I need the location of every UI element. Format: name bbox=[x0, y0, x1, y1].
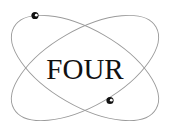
electron-bottom-right-icon bbox=[106, 97, 113, 104]
logo-wordmark: FOUR bbox=[0, 55, 170, 84]
electron-top-left-icon bbox=[31, 12, 38, 19]
four-logo: FOUR bbox=[0, 0, 170, 133]
